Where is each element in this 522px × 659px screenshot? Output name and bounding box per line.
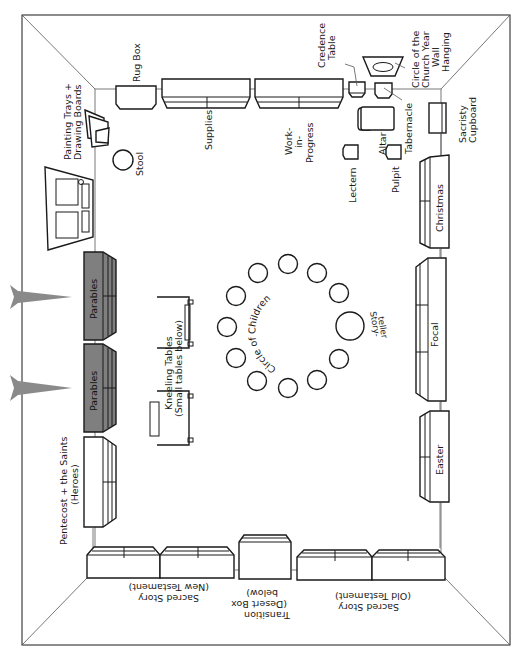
easter-shelf: Easter	[420, 411, 449, 502]
child-seat	[279, 379, 298, 398]
circle-of-children: Story- teller Circle of Children	[218, 255, 390, 398]
sacred-story-nt-shelf-1	[87, 547, 160, 578]
supplies-shelf: Supplies	[162, 79, 250, 150]
supplies-label: Supplies	[203, 110, 214, 150]
arrow-icon-1	[10, 285, 72, 309]
lectern-label: Lectern	[347, 167, 358, 203]
corner-line-br	[445, 578, 510, 645]
transition-label-3: below)	[246, 588, 278, 599]
child-seat	[218, 318, 237, 337]
kneeling-tables: Kneeling Tables (Small tables below)	[150, 297, 193, 445]
door	[45, 167, 93, 250]
easter-label: Easter	[434, 445, 445, 475]
sacristy-cupboard: Sacristy Cupboard	[429, 97, 478, 156]
work-in-progress-label-2: in-	[293, 136, 304, 148]
pulpit-label: Pulpit	[390, 166, 401, 193]
child-seat	[308, 264, 327, 283]
transition-label-2: (Desert Box	[231, 599, 287, 610]
sacred-story-ot-shelf-1	[297, 550, 372, 580]
sacred-story-ot-label-1: Sacred Story	[338, 602, 399, 613]
christmas-label: Christmas	[434, 184, 445, 232]
corner-line-tl	[22, 15, 95, 89]
painting-trays: Painting Trays + Drawing Boards	[62, 83, 109, 160]
parables-shelf-1: Parables	[84, 252, 116, 340]
pentecost-label-1: Pentecost + the Saints	[58, 437, 69, 545]
rug-box-label: Rug Box	[131, 43, 142, 82]
tabernacle-label: Tabernacle	[403, 103, 414, 155]
church-year-wall-hanging: Circle of the Church Year Wall Hanging	[363, 30, 451, 88]
sacred-story-ot-label-2: (Old Testament)	[335, 591, 411, 602]
parables-shelf-2: Parables	[84, 344, 116, 432]
lectern: Lectern	[343, 145, 358, 203]
rug-box: Rug Box	[116, 43, 156, 109]
pentecost-label-2: (Heroes)	[69, 464, 80, 505]
pentecost-shelf: Pentecost + the Saints (Heroes)	[58, 437, 116, 548]
work-in-progress-label-3: Progress	[304, 122, 315, 163]
focal-shelf: Focal	[416, 258, 446, 401]
wall-hanging-label-4: Hanging	[440, 32, 451, 72]
child-seat	[227, 349, 246, 368]
arrow-icon-2	[10, 375, 72, 401]
room-diagram: Rug Box Supplies Work- in- Progress Cred…	[0, 0, 522, 659]
transition-shelf: Transition (Desert Box below)	[231, 535, 291, 621]
child-seat	[330, 284, 349, 303]
sacred-story-ot-shelf-2	[372, 550, 445, 580]
storyteller-seat	[336, 312, 364, 340]
child-seat	[279, 255, 298, 274]
focal-label: Focal	[429, 322, 440, 347]
child-seat	[308, 371, 327, 390]
stool-label: Stool	[134, 152, 145, 176]
child-seat	[248, 372, 267, 391]
child-seat	[227, 287, 246, 306]
kneeling-tables-label-2: (Small tables below)	[173, 320, 184, 417]
child-seat	[330, 350, 349, 369]
work-in-progress-shelf: Work- in- Progress	[255, 79, 343, 163]
parables-1-label: Parables	[88, 279, 99, 319]
sacred-story-nt-shelf-2	[160, 547, 234, 578]
credence-table-label-2: Table	[326, 35, 337, 61]
sacristy-cupboard-label-2: Cupboard	[467, 97, 478, 143]
transition-label-1: Transition	[244, 610, 291, 621]
circle-of-children-label: Circle of Children	[246, 292, 277, 376]
corner-line-bl	[22, 578, 87, 645]
pulpit: Pulpit	[386, 145, 401, 193]
stool: Stool	[113, 150, 145, 176]
sacred-story-nt-label-1: Sacred Story	[138, 593, 199, 604]
corner-line-tr	[441, 15, 510, 89]
painting-trays-label-2: Drawing Boards	[72, 85, 83, 160]
christmas-shelf: Christmas	[420, 155, 449, 248]
sacred-story-nt-label-2: (New Testament)	[128, 582, 209, 593]
parables-2-label: Parables	[88, 371, 99, 411]
child-seat	[249, 264, 268, 283]
